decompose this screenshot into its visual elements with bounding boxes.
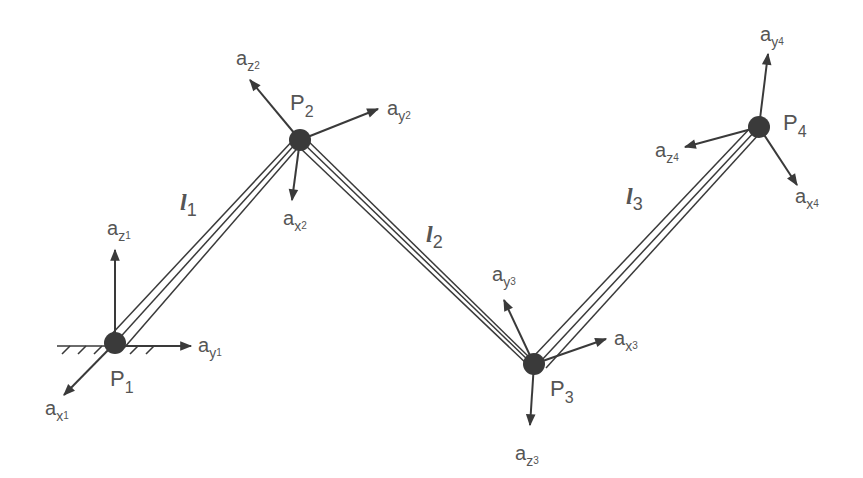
frame-p4-axes — [685, 54, 797, 185]
axis-y4-arrow — [759, 54, 768, 127]
label-p1: P1 — [110, 368, 134, 390]
axis-z4-arrow — [685, 127, 759, 147]
joint-p1 — [104, 332, 126, 354]
label-ay3: ay3 — [492, 264, 516, 284]
manipulator-diagram: P1 P2 P3 P4 l1 l2 l3 az1 ay1 ax1 az2 ay2… — [0, 0, 863, 478]
label-ax3: ax3 — [614, 328, 638, 348]
joint-p3 — [523, 353, 545, 375]
label-l2: l2 — [426, 222, 443, 246]
label-ax1: ax1 — [45, 398, 69, 418]
label-ay4: ay4 — [760, 24, 784, 44]
label-az1: az1 — [107, 218, 131, 238]
label-az4: az4 — [655, 140, 679, 160]
label-l1: l1 — [180, 190, 197, 214]
label-az3: az3 — [515, 443, 539, 463]
label-az2: az2 — [236, 48, 260, 68]
label-p4: P4 — [783, 112, 807, 134]
label-ax4: ax4 — [795, 186, 819, 206]
link-l1 — [109, 137, 301, 348]
link-l3 — [534, 124, 760, 368]
frame-p2-axes — [250, 80, 378, 200]
link-l2 — [298, 136, 532, 366]
label-ay1: ay1 — [198, 335, 222, 355]
joint-p4 — [748, 116, 770, 138]
label-ay2: ay2 — [387, 98, 411, 118]
label-ax2: ax2 — [283, 208, 307, 228]
label-p2: P2 — [290, 92, 314, 114]
label-l3: l3 — [626, 184, 643, 208]
label-p3: P3 — [550, 378, 574, 400]
joint-p2 — [289, 129, 311, 151]
